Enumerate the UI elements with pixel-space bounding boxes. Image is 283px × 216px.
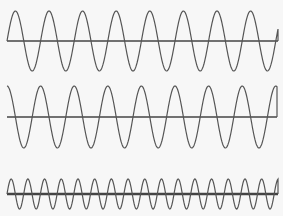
sine-wave-3 [7,179,278,209]
sine-waves-diagram [0,0,283,216]
sine-wave-1 [7,11,278,71]
waves-svg [0,0,283,216]
sine-wave-2 [7,86,277,148]
